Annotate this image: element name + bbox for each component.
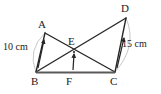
measurement-label-ab: 10 cm	[3, 42, 28, 52]
vertex-label-b: B	[31, 76, 38, 87]
vertex-label-c: C	[110, 76, 117, 87]
segment-ac	[45, 33, 115, 72]
figure-segments	[36, 18, 126, 72]
geometry-figure: A B C D E F 10 cm 15 cm	[0, 0, 161, 94]
vertex-label-d: D	[121, 3, 129, 14]
measurement-label-dc: 15 cm	[122, 39, 147, 49]
segment-ab	[36, 33, 45, 72]
arrow-measure-ab	[38, 40, 44, 68]
vertex-label-e: E	[68, 36, 75, 47]
segment-bd	[36, 18, 126, 72]
vertex-label-f: F	[66, 76, 72, 87]
point-e-marker	[73, 51, 75, 53]
arrow-height-fe	[73, 54, 74, 70]
measure-arrows	[38, 38, 124, 70]
vertex-label-a: A	[38, 19, 46, 30]
